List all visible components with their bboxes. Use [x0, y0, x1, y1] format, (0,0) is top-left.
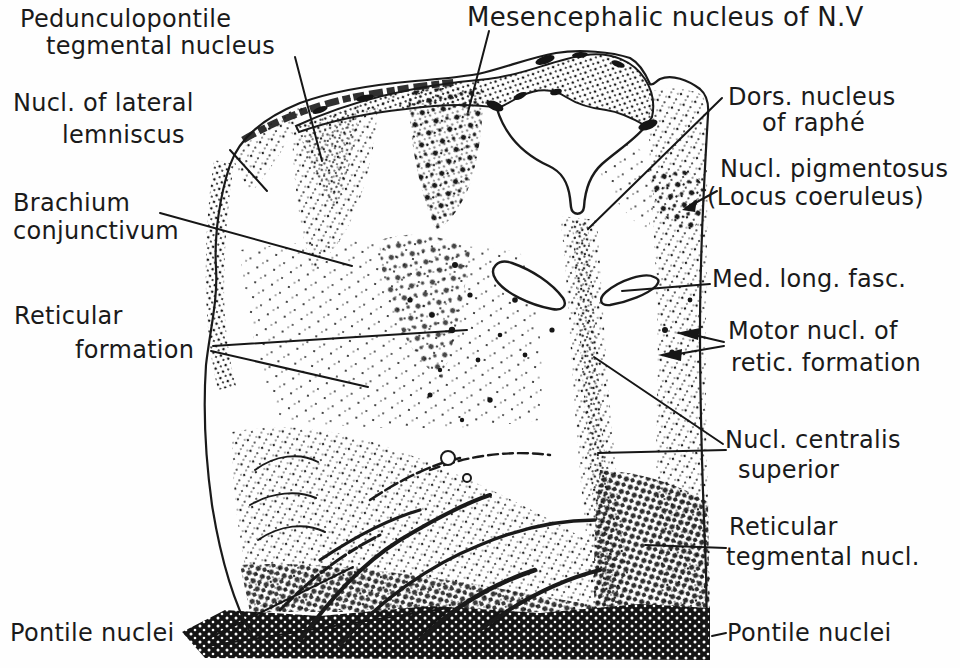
tissue-textures	[182, 87, 710, 660]
label-dors-raphe-line1: Dors. nucleus	[728, 84, 895, 110]
label-centralis-superior-line2: superior	[738, 457, 839, 483]
label-pedunculopontile-line1: Pedunculopontile	[20, 6, 231, 32]
label-pedunculopontile-line2: tegmental nucleus	[46, 33, 275, 59]
label-reticular-tegmental-line1: Reticular	[729, 514, 838, 540]
leader-pontile-right	[712, 633, 726, 636]
label-motor-retic-line2: retic. formation	[731, 350, 921, 376]
label-brachium-line2: conjunctivum	[13, 218, 179, 244]
label-brachium-line1: Brachium	[13, 190, 130, 216]
label-pigmentosus-line2: (Locus coeruleus)	[707, 184, 924, 210]
label-reticular-formation-line1: Reticular	[14, 303, 123, 329]
label-centralis-superior-line1: Nucl. centralis	[725, 427, 901, 453]
label-lateral-lemniscus-line1: Nucl. of lateral	[13, 90, 194, 116]
label-dors-raphe-line2: of raphé	[762, 110, 865, 136]
label-mesencephalic-nucleus: Mesencephalic nucleus of N.V	[467, 4, 864, 30]
label-pontile-nuclei-right: Pontile nuclei	[727, 620, 892, 646]
label-reticular-tegmental-line2: tegmental nucl.	[726, 544, 920, 570]
label-med-long-fasc: Med. long. fasc.	[712, 266, 906, 292]
label-pigmentosus-line1: Nucl. pigmentosus	[720, 156, 948, 182]
figure-page: Pedunculopontile tegmental nucleus Mesen…	[0, 0, 960, 668]
label-pontile-nuclei-left: Pontile nuclei	[10, 620, 175, 646]
label-motor-retic-line1: Motor nucl. of	[728, 318, 898, 344]
label-lateral-lemniscus-line2: lemniscus	[62, 122, 185, 148]
label-reticular-formation-line2: formation	[75, 337, 194, 363]
